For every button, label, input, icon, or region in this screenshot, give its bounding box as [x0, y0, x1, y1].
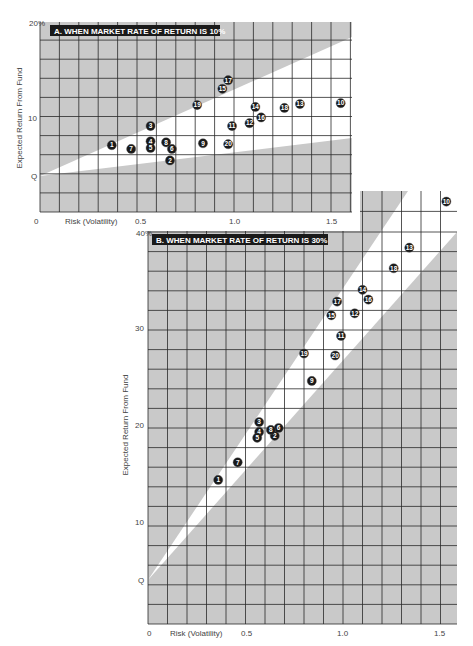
chart-a-ytick-10: 10 — [28, 114, 37, 123]
fund-marker-label: 6 — [170, 145, 174, 152]
fund-marker-20: 20 — [331, 351, 340, 360]
chart-a-xlabel: Risk (Volatility) — [65, 217, 118, 226]
fund-marker-7: 7 — [127, 144, 136, 153]
fund-marker-label: 17 — [334, 298, 342, 305]
chart-panel-b: 1234567891011121314151617181920 B. WHEN … — [121, 191, 457, 638]
chart-a-xtick-15: 1.5 — [326, 217, 338, 226]
fund-marker-label: 6 — [277, 424, 281, 431]
chart-b-xtick-15: 1.5 — [434, 629, 446, 638]
fund-marker-label: 13 — [406, 244, 414, 251]
fund-marker-label: 12 — [246, 119, 254, 126]
fund-marker-label: 17 — [225, 77, 233, 84]
fund-marker-11: 11 — [227, 121, 236, 130]
fund-marker-17: 17 — [224, 76, 233, 85]
chart-b-xtick-0: 0 — [147, 629, 152, 638]
fund-marker-12: 12 — [350, 309, 359, 318]
chart-canvas: 1234567891011121314151617181920 A. WHEN … — [0, 0, 473, 646]
fund-marker-18: 18 — [389, 264, 398, 273]
fund-marker-3: 3 — [255, 418, 264, 427]
fund-marker-label: 1 — [216, 476, 220, 483]
chart-b-ylabel: Expected Return From Fund — [121, 375, 130, 476]
fund-marker-label: 16 — [365, 296, 373, 303]
fund-marker-label: 19 — [300, 350, 308, 357]
fund-marker-label: 9 — [310, 377, 314, 384]
fund-marker-1: 1 — [107, 141, 116, 150]
fund-marker-16: 16 — [257, 113, 266, 122]
figure: 1234567891011121314151617181920 A. WHEN … — [0, 0, 473, 646]
fund-marker-19: 19 — [299, 349, 308, 358]
fund-marker-16: 16 — [364, 295, 373, 304]
fund-marker-18: 18 — [280, 103, 289, 112]
fund-marker-8: 8 — [162, 138, 171, 147]
fund-marker-label: 1 — [110, 141, 114, 148]
fund-marker-5: 5 — [253, 433, 262, 442]
fund-marker-10: 10 — [442, 197, 451, 206]
chart-a-title-box: A. WHEN MARKET RATE OF RETURN IS 10% — [50, 25, 225, 36]
fund-marker-label: 11 — [229, 122, 236, 129]
fund-marker-label: 5 — [255, 434, 259, 441]
fund-marker-label: 19 — [194, 101, 202, 108]
fund-marker-14: 14 — [251, 102, 260, 111]
fund-marker-8: 8 — [266, 425, 275, 434]
chart-b-ytick-10: 10 — [135, 518, 144, 527]
fund-marker-1: 1 — [214, 475, 223, 484]
chart-a-xtick-0: 0 — [34, 217, 39, 226]
fund-marker-label: 9 — [201, 140, 205, 147]
fund-marker-label: 10 — [443, 198, 451, 205]
fund-marker-3: 3 — [146, 121, 155, 130]
chart-a-ytick-20: 20% — [29, 19, 45, 28]
fund-marker-label: 15 — [328, 312, 336, 319]
chart-a-ytick-q: Q — [31, 172, 37, 181]
fund-marker-label: 10 — [337, 99, 345, 106]
chart-b-title-box: B. WHEN MARKET RATE OF RETURN IS 30% — [152, 234, 328, 245]
chart-b-ytick-q: Q — [138, 576, 144, 585]
fund-marker-label: 2 — [168, 157, 172, 164]
fund-marker-9: 9 — [307, 376, 316, 385]
fund-marker-9: 9 — [198, 139, 207, 148]
fund-marker-label: 3 — [149, 122, 153, 129]
fund-marker-label: 12 — [351, 310, 359, 317]
chart-a-title: A. WHEN MARKET RATE OF RETURN IS 10% — [54, 27, 225, 36]
chart-a-xtick-05: 0.5 — [135, 217, 147, 226]
chart-b-xlabel: Risk (Volatility) — [170, 629, 223, 638]
fund-marker-13: 13 — [405, 243, 414, 252]
fund-marker-19: 19 — [193, 100, 202, 109]
fund-marker-15: 15 — [327, 311, 336, 320]
fund-marker-label: 5 — [149, 144, 153, 151]
fund-marker-label: 18 — [281, 104, 289, 111]
fund-marker-label: 16 — [258, 114, 266, 121]
fund-marker-label: 15 — [219, 85, 227, 92]
fund-marker-label: 18 — [390, 265, 398, 272]
fund-marker-label: 7 — [236, 459, 240, 466]
fund-marker-20: 20 — [224, 140, 233, 149]
fund-marker-label: 20 — [332, 352, 340, 359]
chart-a-xtick-10: 1.0 — [229, 217, 241, 226]
fund-marker-label: 7 — [129, 145, 133, 152]
fund-marker-label: 11 — [338, 332, 345, 339]
fund-marker-label: 8 — [269, 426, 273, 433]
fund-marker-10: 10 — [336, 99, 345, 108]
fund-marker-15: 15 — [218, 84, 227, 93]
chart-b-ytick-40: 40% — [136, 229, 152, 238]
chart-a-ylabel: Expected Return From Fund — [15, 68, 24, 169]
fund-marker-label: 3 — [257, 418, 261, 425]
fund-marker-label: 13 — [296, 100, 304, 107]
fund-marker-label: 14 — [359, 286, 367, 293]
fund-marker-11: 11 — [336, 331, 345, 340]
fund-marker-5: 5 — [146, 143, 155, 152]
fund-marker-label: 8 — [164, 139, 168, 146]
fund-marker-label: 14 — [252, 103, 260, 110]
fund-marker-7: 7 — [233, 458, 242, 467]
chart-b-ytick-20: 20 — [135, 421, 144, 430]
fund-marker-2: 2 — [165, 156, 174, 165]
fund-marker-label: 20 — [225, 140, 233, 147]
chart-b-title: B. WHEN MARKET RATE OF RETURN IS 30% — [156, 236, 327, 245]
fund-marker-13: 13 — [295, 99, 304, 108]
chart-panel-a: 1234567891011121314151617181920 A. WHEN … — [15, 19, 352, 226]
chart-b-ytick-30: 30 — [135, 324, 144, 333]
fund-marker-17: 17 — [333, 297, 342, 306]
chart-b-xtick-10: 1.0 — [337, 629, 349, 638]
fund-marker-12: 12 — [245, 119, 254, 128]
chart-b-xtick-05: 0.5 — [241, 629, 253, 638]
fund-marker-14: 14 — [358, 285, 367, 294]
